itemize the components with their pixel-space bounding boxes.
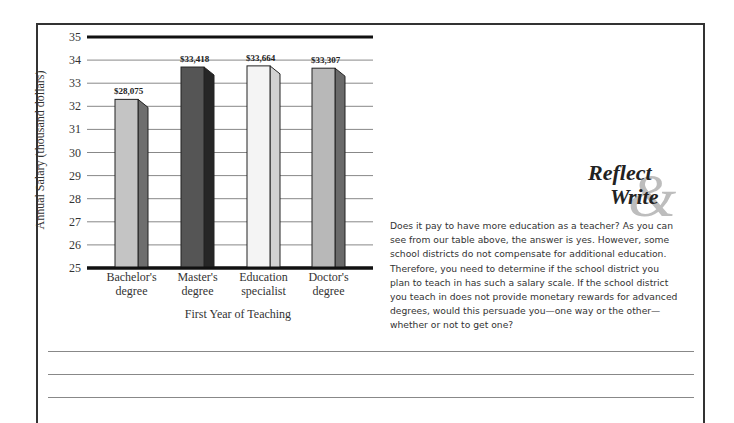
data-labels: $28,075$33,418$33,664$33,307	[114, 53, 341, 96]
x-category-label: degree	[182, 284, 214, 298]
x-axis-title: First Year of Teaching	[148, 307, 328, 322]
x-category-label: degree	[116, 284, 148, 298]
y-tick-label: 26	[69, 238, 81, 252]
y-axis-label: Annual Salary (thousand dollars)	[33, 71, 48, 230]
bar-value-label: $33,307	[311, 55, 341, 65]
bar	[115, 99, 148, 268]
y-tick-label: 27	[69, 215, 81, 229]
logo-reflect: Reflect	[587, 160, 652, 185]
prompt-line: plan to teach in has such a salary scale…	[390, 276, 710, 290]
x-category-label: Master's	[177, 270, 217, 284]
logo-write: Write	[610, 184, 659, 209]
y-tick-label: 32	[69, 99, 81, 113]
bar-value-label: $33,418	[180, 54, 210, 64]
bar	[247, 66, 280, 268]
x-category-label: degree	[313, 284, 345, 298]
y-tick-label: 33	[69, 76, 81, 90]
bar	[312, 68, 345, 268]
reflect-write-logo: & Reflect Write	[570, 150, 700, 230]
x-category-label: Bachelor's	[106, 270, 156, 284]
y-tick-label: 34	[69, 53, 81, 67]
x-category-label: Doctor's	[308, 270, 348, 284]
reflect-prompt: Does it pay to have more education as a …	[390, 219, 710, 333]
writing-line	[48, 397, 694, 398]
x-category-label: specialist	[241, 284, 286, 298]
x-axis-categories: Bachelor'sdegreeMaster'sdegreeEducations…	[106, 270, 348, 298]
prompt-line: Therefore, you need to determine if the …	[390, 262, 710, 276]
prompt-line: school districts do not compensate for a…	[390, 247, 710, 261]
bar-value-label: $33,664	[246, 53, 276, 63]
y-tick-label: 31	[69, 122, 81, 136]
y-axis-ticks: 2526272829303132333435	[69, 30, 81, 275]
prompt-line: Does it pay to have more education as a …	[390, 219, 710, 233]
y-tick-label: 28	[69, 192, 81, 206]
prompt-line: you teach in does not provide monetary r…	[390, 290, 710, 304]
prompt-line: whether or not to get one?	[390, 318, 710, 332]
writing-line	[48, 351, 694, 352]
x-category-label: Education	[239, 270, 288, 284]
prompt-line: see from our table above, the answer is …	[390, 233, 710, 247]
bar	[181, 67, 214, 268]
y-tick-label: 30	[69, 146, 81, 160]
writing-line	[48, 374, 694, 375]
bar-value-label: $28,075	[114, 86, 144, 96]
y-tick-label: 29	[69, 169, 81, 183]
y-tick-label: 35	[69, 30, 81, 44]
prompt-line: degrees, would this persuade you—one way…	[390, 304, 710, 318]
y-tick-label: 25	[69, 261, 81, 275]
bar-chart: 2526272829303132333435 $28,075$33,418$33…	[0, 0, 400, 340]
